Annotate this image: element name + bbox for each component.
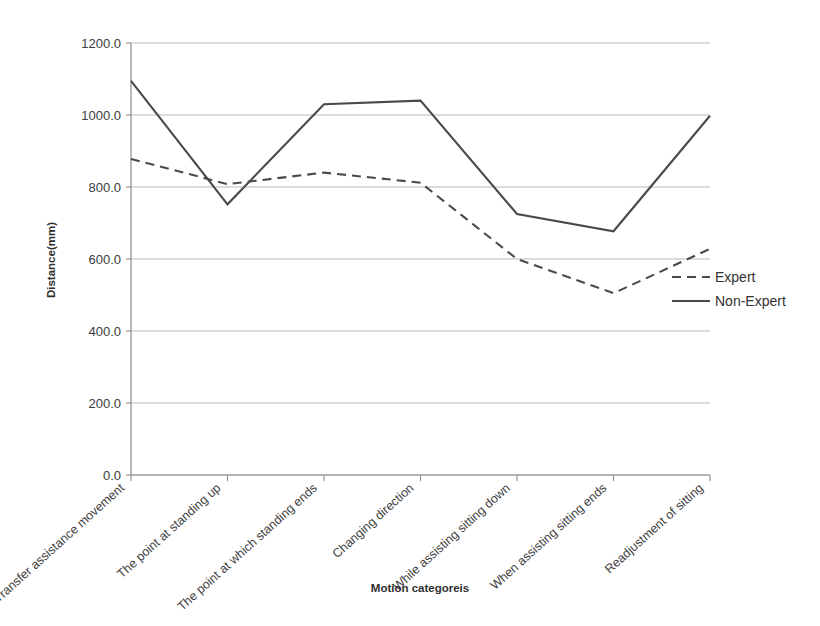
x-category-labels: Transfer assistance movementThe point at… [0,480,706,613]
x-axis-title: Motion categoreis [371,582,469,594]
y-axis-title: Distance(mm) [45,222,57,298]
legend: ExpertNon-Expert [672,269,786,309]
y-tick-label: 400.0 [88,324,121,339]
legend-label-non-expert: Non-Expert [715,293,786,309]
x-category-label: Transfer assistance movement [0,480,127,605]
y-tick-label: 600.0 [88,252,121,267]
series-line-non-expert [131,81,710,231]
legend-label-expert: Expert [715,269,756,285]
y-tick-labels: 0.0200.0400.0600.0800.01000.01200.0 [81,36,121,483]
x-axis-group: Transfer assistance movementThe point at… [0,475,710,614]
chart-figure: 0.0200.0400.0600.0800.01000.01200.0 Dist… [0,0,820,626]
y-tick-marks [126,43,131,475]
x-category-label: The point at standing up [114,481,223,581]
y-tick-label: 0.0 [103,468,121,483]
y-tick-label: 1000.0 [81,108,121,123]
x-category-label: Changing direction [330,481,417,561]
y-axis-group: 0.0200.0400.0600.0800.01000.01200.0 Dist… [45,36,131,483]
y-tick-label: 800.0 [88,180,121,195]
line-chart-canvas: 0.0200.0400.0600.0800.01000.01200.0 Dist… [0,0,820,626]
x-tick-marks [131,475,710,481]
series-line-expert [131,159,710,293]
y-tick-label: 1200.0 [81,36,121,51]
gridlines-group [131,43,710,475]
x-category-label: Readjustment of sitting [602,481,706,577]
y-tick-label: 200.0 [88,396,121,411]
